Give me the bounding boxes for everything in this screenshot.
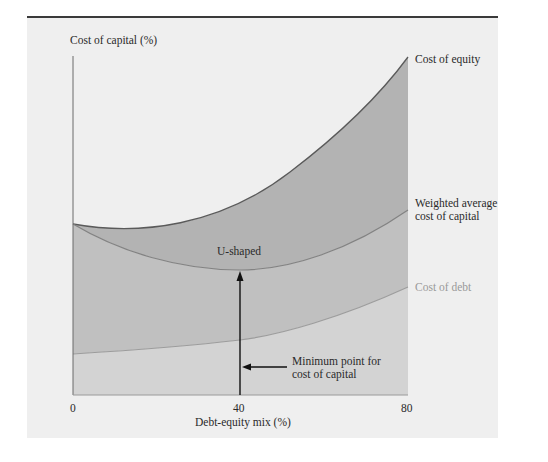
minimum-point-annotation: Minimum point for cost of capital <box>292 355 382 381</box>
equity-band <box>73 57 408 270</box>
wacc-label: Weighted average cost of capital <box>415 197 515 223</box>
cost-of-debt-label: Cost of debt <box>415 281 471 294</box>
cost-of-equity-label: Cost of equity <box>415 53 480 66</box>
x-tick-0: 0 <box>70 402 76 414</box>
y-axis-label: Cost of capital (%) <box>70 34 157 47</box>
x-tick-40: 40 <box>233 402 245 414</box>
chart-plot <box>0 0 548 462</box>
x-tick-80: 80 <box>401 402 413 414</box>
u-shaped-annotation: U-shaped <box>217 245 261 258</box>
x-axis-label: Debt-equity mix (%) <box>195 416 291 429</box>
